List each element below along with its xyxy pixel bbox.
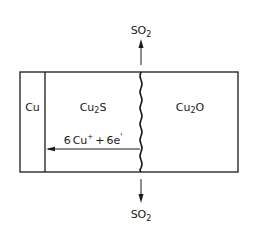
scale-cross-section-box — [20, 72, 238, 172]
cu2s-cu2o-wavy-interface — [140, 72, 142, 172]
layer-label-cu2s: Cu2S — [80, 101, 107, 115]
layer-label-cu2o: Cu2O — [176, 101, 205, 115]
layer-label-cu: Cu — [25, 101, 40, 114]
transport-label: 6Cu++6e' — [64, 133, 123, 147]
top-so2-label: SO2 — [131, 24, 152, 39]
arrow-head-up-icon — [139, 39, 144, 48]
scale-formation-diagram: SO2 SO2 Cu Cu2S Cu2O 6Cu++6e' — [0, 0, 256, 230]
bottom-so2-label: SO2 — [131, 208, 152, 223]
arrow-head-left-icon — [46, 147, 55, 151]
arrow-head-down-icon — [139, 194, 144, 203]
